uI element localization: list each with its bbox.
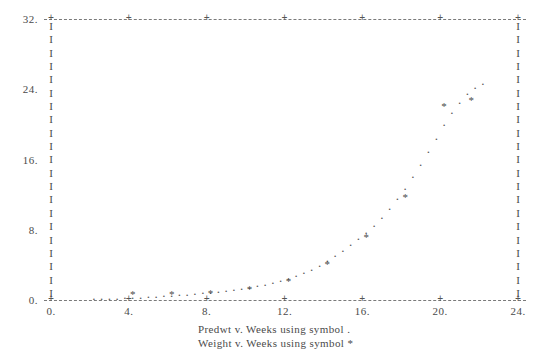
data-point-predwt: .	[139, 288, 142, 301]
x-tick-label: 8.	[202, 306, 211, 317]
data-point-predwt: .	[225, 281, 228, 294]
y-axis-mark: I	[49, 115, 53, 124]
y-axis-mark: I	[49, 35, 53, 44]
data-point-predwt: .	[186, 284, 189, 297]
y-axis-mark: I	[516, 22, 520, 31]
y-axis-mark: I	[49, 49, 53, 58]
x-tick-mark: +	[281, 14, 287, 24]
data-point-predwt: .	[162, 286, 165, 299]
data-point-predwt: .	[442, 115, 445, 128]
data-point-weight: *	[130, 289, 136, 300]
scatter-plot: ++0.++4.++8.++12.++16.++20.++24.0.8.16.2…	[0, 0, 548, 354]
y-axis-mark: I	[516, 276, 520, 285]
data-point-predwt: .	[341, 241, 344, 254]
y-axis-mark: I	[516, 89, 520, 98]
y-axis-mark: I	[516, 49, 520, 58]
y-axis-mark: I	[49, 89, 53, 98]
legend: Predwt v. Weeks using symbol . Weight v.…	[198, 322, 353, 350]
data-point-predwt: .	[435, 129, 438, 142]
y-axis-mark: I	[49, 102, 53, 111]
data-point-predwt: .	[100, 289, 103, 302]
y-axis-mark: I	[49, 276, 53, 285]
y-axis-mark: I	[516, 62, 520, 71]
y-axis-mark: I	[516, 142, 520, 151]
y-axis-mark: I	[516, 249, 520, 258]
data-point-predwt: .	[310, 259, 313, 272]
x-tick-mark: +	[126, 14, 132, 24]
y-axis-mark: I	[49, 236, 53, 245]
data-point-weight: *	[169, 289, 175, 300]
data-point-predwt: .	[388, 199, 391, 212]
data-point-predwt: .	[279, 271, 282, 284]
data-point-weight: *	[286, 276, 292, 287]
data-point-predwt: .	[380, 208, 383, 221]
data-point-predwt: .	[458, 93, 461, 106]
x-tick-mark: +	[204, 14, 210, 24]
data-point-predwt: .	[295, 266, 298, 279]
y-axis-mark: I	[49, 195, 53, 204]
data-point-predwt: .	[232, 280, 235, 293]
data-point-predwt: .	[178, 285, 181, 298]
data-point-predwt: .	[154, 287, 157, 300]
data-point-predwt: .	[349, 235, 352, 248]
data-point-predwt: .	[116, 289, 119, 302]
legend-entry-weight: Weight v. Weeks using symbol *	[198, 336, 353, 350]
x-tick-mark: +	[437, 295, 443, 305]
data-point-predwt: .	[318, 255, 321, 268]
data-point-predwt: .	[411, 167, 414, 180]
data-point-predwt: .	[147, 287, 150, 300]
y-axis-mark: I	[49, 62, 53, 71]
data-point-predwt: .	[404, 179, 407, 192]
y-axis-mark: I	[516, 35, 520, 44]
x-tick-mark: +	[359, 295, 365, 305]
y-axis-mark: I	[49, 262, 53, 271]
y-axis-mark: I	[49, 209, 53, 218]
data-point-predwt: .	[333, 246, 336, 259]
y-axis-mark: I	[49, 142, 53, 151]
y-axis-mark: I	[516, 209, 520, 218]
y-axis-mark: I	[516, 155, 520, 164]
y-axis-mark: I	[49, 22, 53, 31]
y-axis-mark: I	[516, 129, 520, 138]
data-point-predwt: .	[419, 155, 422, 168]
y-tick-label: 24.	[8, 84, 38, 95]
x-tick-mark: +	[437, 14, 443, 24]
y-axis-mark: I	[516, 262, 520, 271]
y-tick-label: 8.	[8, 224, 38, 235]
data-point-predwt: .	[481, 74, 484, 87]
data-point-predwt: .	[108, 289, 111, 302]
data-point-predwt: .	[201, 283, 204, 296]
data-point-weight: *	[363, 232, 369, 243]
y-axis-mark: I	[49, 182, 53, 191]
x-tick-mark: +	[281, 295, 287, 305]
y-axis-mark: I	[516, 236, 520, 245]
y-axis-mark: I	[49, 169, 53, 178]
y-axis-right: IIIIIIIIIIIIIIIIIIIII	[512, 22, 524, 298]
data-point-predwt: .	[450, 103, 453, 116]
data-point-weight: *	[469, 95, 475, 106]
y-axis-mark: I	[516, 195, 520, 204]
y-axis-mark: I	[516, 289, 520, 298]
data-point-predwt: .	[123, 288, 126, 301]
x-tick-label: 24.	[510, 306, 525, 317]
data-point-predwt: .	[372, 216, 375, 229]
y-axis-mark: I	[516, 115, 520, 124]
x-tick-label: 4.	[124, 306, 133, 317]
data-point-predwt: .	[357, 229, 360, 242]
data-point-predwt: .	[271, 273, 274, 286]
data-point-predwt: .	[302, 263, 305, 276]
x-tick-label: 20.	[433, 306, 448, 317]
data-point-weight: *	[402, 192, 408, 203]
data-point-predwt: .	[240, 279, 243, 292]
x-tick-label: 0.	[46, 306, 55, 317]
data-point-predwt: .	[263, 275, 266, 288]
data-point-predwt: .	[256, 276, 259, 289]
y-tick-label: 0.	[8, 295, 38, 306]
y-axis-mark: I	[49, 129, 53, 138]
legend-entry-predwt: Predwt v. Weeks using symbol .	[198, 322, 353, 336]
data-point-predwt: .	[474, 78, 477, 91]
y-axis-mark: I	[516, 75, 520, 84]
data-point-predwt: .	[92, 289, 95, 302]
y-axis-mark: I	[49, 75, 53, 84]
y-axis-mark: I	[49, 289, 53, 298]
